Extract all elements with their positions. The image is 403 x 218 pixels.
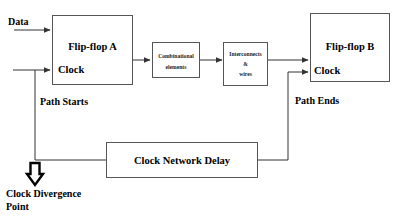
clock-network-delay-title: Clock Network Delay	[107, 155, 257, 166]
block-flip-flop-a: Flip-flop A Clock	[52, 15, 133, 85]
clock-divergence-line-1: Clock Divergence	[6, 188, 81, 201]
flip-flop-b-title: Flip-flop B	[311, 41, 389, 52]
interconnects-line-1: Interconnects	[224, 50, 267, 58]
down-arrow-icon	[27, 163, 43, 185]
interconnects-line-2: &	[224, 60, 267, 68]
flip-flop-a-clock-label: Clock	[58, 64, 84, 75]
block-combinational-elements: Combinational elements	[152, 42, 200, 78]
label-path-ends: Path Ends	[295, 95, 339, 106]
interconnects-line-3: wires	[224, 70, 267, 78]
label-path-starts: Path Starts	[40, 96, 88, 107]
flip-flop-b-clock-label: Clock	[314, 65, 340, 76]
block-flip-flop-b: Flip-flop B Clock	[310, 13, 390, 82]
combinational-line-2: elements	[153, 63, 199, 71]
block-clock-network-delay: Clock Network Delay	[106, 142, 258, 178]
label-data: Data	[8, 16, 29, 27]
clock-divergence-line-2: Point	[6, 201, 81, 214]
timing-path-diagram: Flip-flop A Clock Combinational elements…	[0, 0, 403, 218]
label-clock-divergence-point: Clock Divergence Point	[6, 188, 81, 213]
flip-flop-a-title: Flip-flop A	[53, 41, 132, 52]
combinational-line-1: Combinational	[153, 52, 199, 60]
block-interconnects-wires: Interconnects & wires	[223, 42, 268, 86]
